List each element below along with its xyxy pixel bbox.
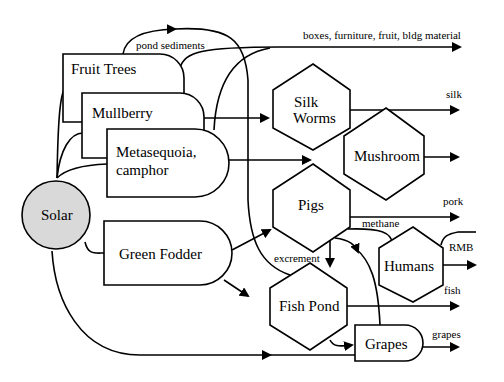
flow-diagram: Fruit Trees Mullberry Metasequoia, camph… (0, 0, 504, 382)
svg-text:Mullberry: Mullberry (92, 105, 153, 121)
svg-text:Silk: Silk (294, 94, 319, 110)
label-grapes: grapes (432, 328, 461, 340)
label-methane: methane (362, 217, 399, 229)
consumer-humans: Humans (379, 227, 443, 302)
consumer-mushroom: Mushroom (344, 108, 424, 200)
svg-text:Green Fodder: Green Fodder (119, 246, 202, 262)
source-solar: Solar (22, 181, 90, 249)
label-excrement: excrement (274, 252, 320, 264)
producer-grapes: Grapes (355, 325, 423, 361)
svg-text:Solar: Solar (41, 207, 73, 223)
label-fish: fish (444, 284, 461, 296)
svg-text:camphor: camphor (116, 162, 168, 178)
svg-text:Humans: Humans (384, 258, 434, 274)
svg-text:Mushroom: Mushroom (354, 148, 420, 164)
label-pork: pork (443, 195, 464, 207)
svg-text:Pigs: Pigs (298, 197, 324, 213)
producer-metasequoia: Metasequoia, camphor (107, 129, 229, 197)
producer-green-fodder: Green Fodder (104, 221, 232, 285)
svg-text:Fish Pond: Fish Pond (279, 298, 340, 314)
label-silk: silk (446, 88, 462, 100)
svg-text:Grapes: Grapes (365, 336, 408, 352)
label-boxes: boxes, furniture, fruit, bldg material (303, 29, 461, 41)
consumer-fish-pond: Fish Pond (270, 263, 347, 350)
label-pond-sediments: pond sediments (136, 39, 205, 51)
label-rmb: RMB (449, 241, 473, 253)
svg-text:Metasequoia,: Metasequoia, (116, 144, 196, 160)
svg-text:Worms: Worms (293, 110, 336, 126)
consumer-silk-worms: Silk Worms (273, 64, 350, 150)
svg-text:Fruit Trees: Fruit Trees (71, 61, 137, 77)
